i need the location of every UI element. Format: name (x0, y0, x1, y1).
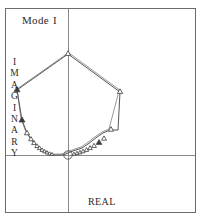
data-marker-open-triangle (102, 136, 107, 140)
plot-title: ModeI (22, 14, 57, 26)
data-marker-open-triangle (92, 143, 97, 147)
data-marker-filled-triangle (96, 140, 102, 145)
y-axis-label-letter: A (11, 125, 18, 136)
plot-title-mode-word: Mode (22, 14, 49, 26)
y-axis-label-letter: I (13, 103, 16, 114)
y-axis-label-letter: Y (11, 148, 18, 159)
y-axis-label-letter: R (11, 137, 17, 148)
data-marker-open-triangle (50, 152, 54, 155)
y-axis-label-letter: I (13, 57, 16, 68)
axes-group (6, 9, 195, 212)
figure-root: ModeI I M A G I N A R Y REAL (0, 0, 203, 223)
y-axis-label-letter: G (11, 91, 18, 102)
x-axis-label: REAL (88, 196, 116, 207)
y-axis-label-letter: A (11, 80, 18, 91)
y-axis-label-letter: M (10, 68, 18, 79)
plot-canvas (0, 0, 203, 223)
y-axis-label: I M A G I N A R Y (8, 57, 21, 160)
y-axis-label-letter: N (11, 114, 18, 125)
plot-title-mode-number: I (53, 14, 57, 26)
